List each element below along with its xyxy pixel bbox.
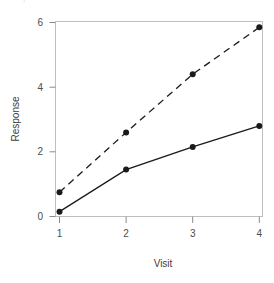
y-tick-label-0: 0 [37,211,43,222]
series-layer [57,24,263,214]
data-point [256,24,262,30]
x-tick-label-3: 3 [190,228,196,239]
x-tick-label-1: 1 [57,228,63,239]
series-2 [57,123,263,215]
chart-figure: Sample size 0 2 4 6 1 2 3 4 Visit Respo [0,0,274,283]
clipped-top-text: Sample size [6,0,53,2]
data-point [190,71,196,77]
data-point [256,123,262,129]
y-tick-label-4: 4 [37,82,43,93]
y-axis-title: Response [10,96,21,141]
data-point [57,189,63,195]
x-tick-label-2: 2 [123,228,129,239]
series-1 [57,24,263,195]
x-axis-title: Visit [154,258,173,269]
y-tick-label-2: 2 [37,146,43,157]
line-chart-canvas: 0 2 4 6 1 2 3 4 Visit Response [0,0,274,283]
x-tick-label-4: 4 [257,228,263,239]
plot-frame-box [56,22,263,217]
data-point [190,144,196,150]
data-point [57,209,63,215]
series-line-2 [60,126,260,212]
series-line-1 [60,27,260,192]
y-tick-label-6: 6 [37,17,43,28]
data-point [123,129,129,135]
x-axis-ticks [60,217,260,224]
data-point [123,167,129,173]
y-axis-ticks [50,23,56,217]
